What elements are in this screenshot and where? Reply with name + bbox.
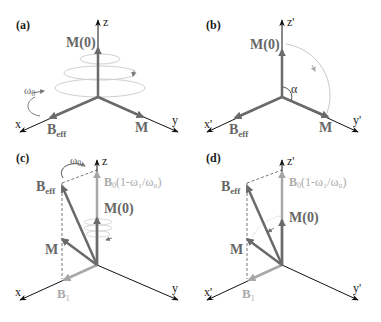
beff-label: Beff [221, 179, 241, 196]
m-vector [98, 97, 143, 117]
panel-d-label: (d) [206, 151, 221, 165]
x-prime-axis-label: x' [204, 117, 212, 131]
m0-label: M(0) [250, 37, 280, 53]
alpha-label: α [291, 82, 298, 96]
z-axis-label: z [103, 15, 108, 29]
omega0-curve [28, 97, 40, 116]
magnetization-precession-diagram: (a) z x y M(0) Beff M ω0 (b) [0, 0, 381, 322]
panel-b: (b) z' x' y' α M(0) Beff M [204, 15, 361, 139]
x-axis-label: x [15, 117, 21, 131]
m-label: M [230, 242, 243, 257]
beff-vector [50, 97, 98, 118]
y-axis [97, 265, 178, 300]
b0-expression-label: B0(1-ω₁/ω₀) [289, 175, 347, 190]
b1-label: B1 [242, 286, 255, 303]
panel-d: (d) z' x' y' Beff M M(0) B0(1-ω₁/ω₀) B1 [204, 151, 361, 303]
y-prime-axis [282, 265, 358, 300]
rotation-arc-arrow-icon [268, 228, 274, 232]
m-label: M [319, 120, 332, 135]
x-axis-label: x [15, 285, 21, 299]
panel-a-label: (a) [16, 18, 30, 32]
y-axis-label: y [172, 113, 178, 127]
rotation-arc-arrow-icon [312, 65, 315, 71]
omega0-label: ω0 [24, 84, 35, 98]
beff-label: Beff [229, 122, 249, 139]
panel-a: (a) z x y M(0) Beff M ω0 [15, 15, 178, 139]
m0-label: M(0) [104, 201, 134, 217]
z-axis-label: z [102, 154, 107, 168]
z-prime-axis-label: z' [287, 154, 295, 168]
precession-arrow-icon [106, 238, 112, 240]
beff-vector [235, 97, 282, 118]
panel-c: (c) z x y Beff M M(0) B0(1-ω₁/ω₀) B1 ω0 [15, 151, 178, 303]
z-prime-axis-label: z' [287, 15, 295, 29]
panel-b-label: (b) [206, 18, 221, 32]
b1-vector [249, 265, 282, 280]
omega0-label: ω0 [70, 154, 81, 168]
beff-label: Beff [47, 122, 67, 139]
m-label: M [45, 242, 58, 257]
b0-expression-label: B0(1-ω₁/ω₀) [104, 175, 162, 190]
y-prime-axis-label: y' [353, 113, 361, 127]
b1-label: B1 [57, 286, 70, 303]
y-prime-axis-label: y' [353, 281, 361, 295]
beff-label: Beff [36, 179, 56, 196]
dashed-projection-top [62, 170, 97, 183]
m-label: M [135, 120, 148, 135]
m0-label: M(0) [66, 35, 96, 51]
panel-c-label: (c) [16, 151, 29, 165]
y-axis-label: y [172, 281, 178, 295]
m0-label: M(0) [289, 210, 319, 226]
b1-vector [64, 265, 97, 280]
dashed-projection-top [247, 170, 282, 183]
precession-helix [55, 54, 145, 97]
m-vector [282, 97, 328, 117]
x-prime-axis-label: x' [204, 285, 212, 299]
